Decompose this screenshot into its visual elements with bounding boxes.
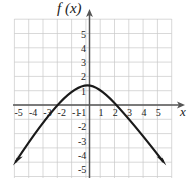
y-tick-label: 1 (81, 86, 86, 97)
y-tick-label: -4 (78, 150, 86, 161)
y-tick-label: -1 (78, 107, 86, 118)
parabola-graph-figure: f (x) x -5 -4 -3 -2 -1 1 2 3 4 5 5 4 3 2… (0, 0, 195, 187)
y-tick-label: -5 (78, 164, 86, 175)
y-tick-labels: 5 4 3 2 1 -1 -2 -3 -4 -5 (0, 0, 195, 187)
y-tick-label: -2 (78, 121, 86, 132)
y-tick-label: 4 (81, 43, 86, 54)
y-tick-label: 2 (81, 71, 86, 82)
y-tick-label: 3 (81, 57, 86, 68)
y-tick-label: 5 (81, 29, 86, 40)
y-tick-label: -3 (78, 136, 86, 147)
